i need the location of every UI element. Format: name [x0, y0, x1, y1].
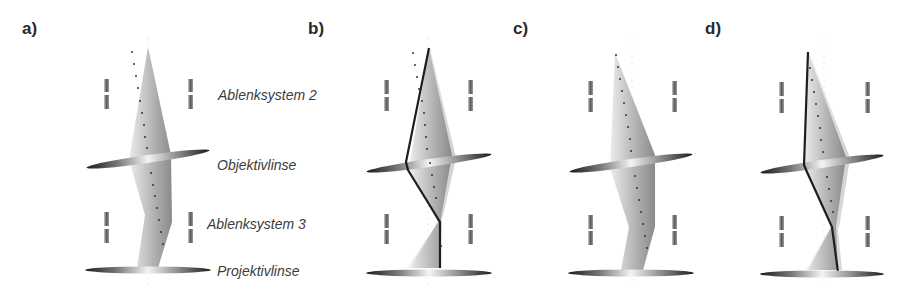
- projective-lens: [568, 270, 694, 277]
- panel-c: [568, 38, 694, 285]
- projective-lens: [85, 267, 211, 274]
- beam-path-diagram: [0, 0, 921, 290]
- projective-lens: [760, 271, 884, 278]
- panel-d: [760, 38, 884, 285]
- panel-a: [85, 38, 211, 285]
- projective-lens: [366, 270, 492, 277]
- panel-b: [366, 38, 492, 285]
